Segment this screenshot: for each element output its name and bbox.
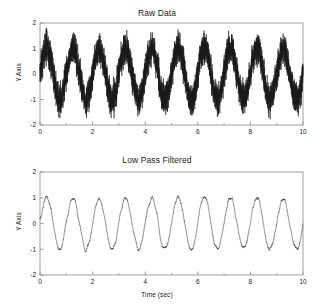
x-tick-label: 10 — [299, 128, 307, 135]
y-tick-label: 2 — [32, 19, 36, 26]
y-tick-label: -1 — [30, 246, 36, 253]
x-axis-label: Time (sec) — [0, 291, 314, 298]
x-tick-label: 0 — [38, 278, 42, 285]
y-tick-label: 0 — [32, 220, 36, 227]
y-tick-label: 0 — [32, 70, 36, 77]
y-tick-label: -2 — [30, 121, 36, 128]
plot-area-low-pass-filtered: -2-10120246810 — [0, 152, 314, 308]
panel-low-pass-filtered: Low Pass Filtered Y Axis -2-10120246810 … — [0, 152, 314, 308]
x-tick-label: 8 — [249, 128, 253, 135]
figure-root: Raw Data Y Axis -2-10120246810 Low Pass … — [0, 0, 314, 308]
x-tick-label: 4 — [143, 128, 147, 135]
data-series-line — [40, 28, 303, 119]
panel-raw-data: Raw Data Y Axis -2-10120246810 — [0, 0, 314, 152]
x-tick-label: 10 — [299, 278, 307, 285]
plot-area-raw-data: -2-10120246810 — [0, 0, 314, 152]
x-tick-label: 6 — [196, 128, 200, 135]
y-tick-label: 1 — [32, 194, 36, 201]
y-tick-label: 1 — [32, 45, 36, 52]
y-tick-label: -1 — [30, 96, 36, 103]
y-tick-label: 2 — [32, 168, 36, 175]
x-tick-label: 0 — [38, 128, 42, 135]
x-tick-label: 4 — [143, 278, 147, 285]
y-tick-label: -2 — [30, 271, 36, 278]
data-series-line — [40, 196, 303, 252]
x-tick-label: 8 — [249, 278, 253, 285]
x-tick-label: 2 — [91, 128, 95, 135]
x-tick-label: 2 — [91, 278, 95, 285]
x-tick-label: 6 — [196, 278, 200, 285]
